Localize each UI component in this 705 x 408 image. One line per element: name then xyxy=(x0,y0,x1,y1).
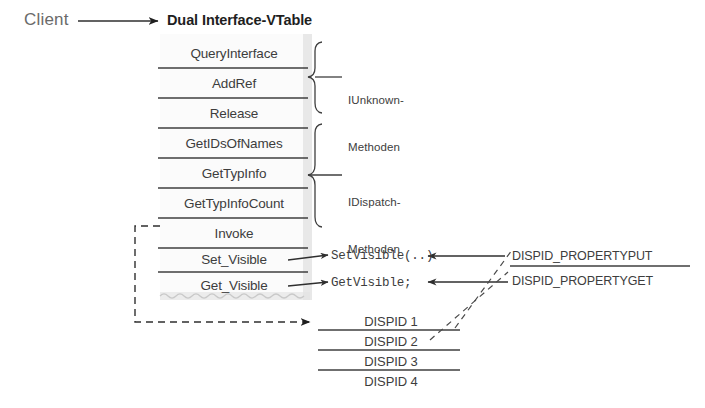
vtable-row-invoke[interactable]: Invoke xyxy=(158,218,310,248)
idispatch-group-label: IDispatch- Methoden xyxy=(348,164,401,288)
diagram-canvas: Client Dual Interface-VTable QueryInterf… xyxy=(0,0,705,408)
set-visible-implementation-label: SetVisible(..) xyxy=(331,249,433,263)
dispid-row-3[interactable]: DISPID 3 xyxy=(320,351,462,371)
dispid-propertyget-label: DISPID_PROPERTYGET xyxy=(512,274,653,288)
idispatch-brace xyxy=(308,124,342,227)
client-label: Client xyxy=(24,10,69,29)
vtable-row-gettypinfocount[interactable]: GetTypInfoCount xyxy=(158,188,310,218)
iunknown-brace xyxy=(308,42,342,113)
vtable-row-release[interactable]: Release xyxy=(158,98,310,128)
vtable-row-queryinterface[interactable]: QueryInterface xyxy=(158,38,310,68)
iunknown-group-label-line2: Methoden xyxy=(348,140,404,156)
iunknown-group-label-line1: IUnknown- xyxy=(348,93,404,109)
dispid-row-4[interactable]: DISPID 4 xyxy=(320,371,462,391)
dispid-row-2[interactable]: DISPID 2 xyxy=(320,331,462,351)
page-title: Dual Interface-VTable xyxy=(167,12,312,28)
get-visible-implementation-label: GetVisible; xyxy=(331,276,411,290)
vtable-row-set-visible[interactable]: Set_Visible xyxy=(158,246,310,272)
idispatch-group-label-line1: IDispatch- xyxy=(348,195,401,211)
vtable-row-addref[interactable]: AddRef xyxy=(158,68,310,98)
dispid-row-1[interactable]: DISPID 1 xyxy=(320,311,462,331)
vtable-row-get-visible[interactable]: Get_Visible xyxy=(158,272,310,298)
vtable-row-getidsofnames[interactable]: GetIDsOfNames xyxy=(158,128,310,158)
vtable-row-gettypinfo[interactable]: GetTypInfo xyxy=(158,158,310,188)
dispid-propertyput-label: DISPID_PROPERTYPUT xyxy=(512,249,652,263)
